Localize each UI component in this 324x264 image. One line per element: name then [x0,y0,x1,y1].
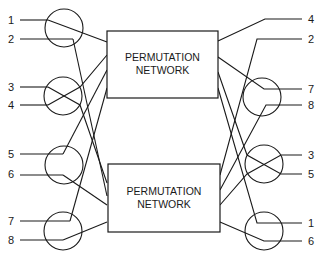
input-labels: 1 2 3 4 5 6 7 8 [8,14,14,246]
output-labels: 4 2 7 8 3 5 1 6 [308,13,314,247]
upper-permutation-network: PERMUTATION NETWORK [107,31,218,98]
input-label: 2 [8,33,14,45]
output-label: 8 [308,99,314,111]
output-label: 5 [308,168,314,180]
output-label: 4 [308,13,314,25]
output-label: 7 [308,83,314,95]
right-routing [218,19,302,241]
input-label: 5 [8,148,14,160]
left-switch-1 [45,9,83,47]
output-label: 2 [308,33,314,45]
right-switch-1 [243,78,281,116]
permutation-network-diagram: PERMUTATION NETWORK PERMUTATION NETWORK … [0,0,324,264]
input-label: 1 [8,14,14,26]
input-label: 7 [8,215,14,227]
lower-permutation-network: PERMUTATION NETWORK [108,164,220,232]
output-label: 6 [308,235,314,247]
right-switch-3 [245,212,283,250]
left-switch-4 [44,212,82,250]
upper-box-label-line1: PERMUTATION [125,51,200,63]
input-label: 8 [8,234,14,246]
left-routing [48,20,107,240]
left-input-lines [20,20,73,240]
lower-box-label-line2: NETWORK [137,198,191,210]
left-switches [44,9,83,250]
input-label: 6 [8,168,14,180]
input-label: 3 [8,81,14,93]
output-label: 3 [308,149,314,161]
input-label: 4 [8,99,14,111]
upper-box-label-line2: NETWORK [136,64,190,76]
lower-box-label-line1: PERMUTATION [127,185,202,197]
output-label: 1 [308,217,314,229]
